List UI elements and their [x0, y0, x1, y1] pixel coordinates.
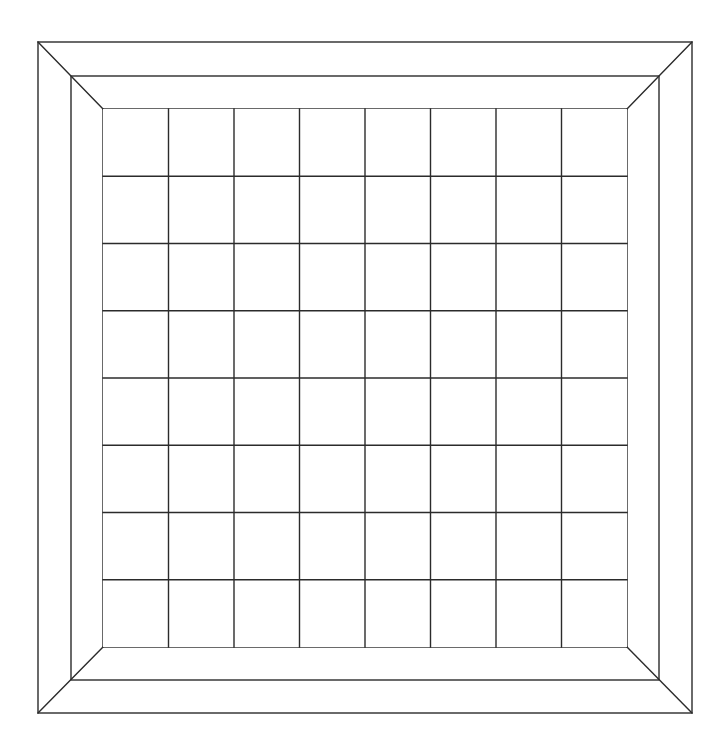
- square-b3[interactable]: [169, 445, 235, 512]
- square-d7[interactable]: [300, 176, 366, 243]
- square-e7[interactable]: [365, 176, 431, 243]
- square-d6[interactable]: [300, 244, 366, 311]
- square-d5[interactable]: [300, 311, 366, 378]
- square-f5[interactable]: [431, 311, 497, 378]
- square-d4[interactable]: [300, 378, 366, 445]
- square-f1[interactable]: [431, 580, 497, 647]
- square-a4[interactable]: [103, 378, 169, 445]
- square-g1[interactable]: [496, 580, 562, 647]
- square-a6[interactable]: [103, 244, 169, 311]
- square-e5[interactable]: [365, 311, 431, 378]
- square-c2[interactable]: [234, 513, 300, 580]
- square-b6[interactable]: [169, 244, 235, 311]
- square-f7[interactable]: [431, 176, 497, 243]
- square-h8[interactable]: [562, 109, 628, 176]
- chessboard: [0, 0, 722, 754]
- square-h6[interactable]: [562, 244, 628, 311]
- square-b7[interactable]: [169, 176, 235, 243]
- square-a5[interactable]: [103, 311, 169, 378]
- square-c5[interactable]: [234, 311, 300, 378]
- square-g4[interactable]: [496, 378, 562, 445]
- square-e4[interactable]: [365, 378, 431, 445]
- square-e8[interactable]: [365, 109, 431, 176]
- square-e6[interactable]: [365, 244, 431, 311]
- square-a3[interactable]: [103, 445, 169, 512]
- square-b8[interactable]: [169, 109, 235, 176]
- square-a8[interactable]: [103, 109, 169, 176]
- square-e1[interactable]: [365, 580, 431, 647]
- square-d1[interactable]: [300, 580, 366, 647]
- square-g5[interactable]: [496, 311, 562, 378]
- square-f6[interactable]: [431, 244, 497, 311]
- square-h2[interactable]: [562, 513, 628, 580]
- square-d2[interactable]: [300, 513, 366, 580]
- square-f3[interactable]: [431, 445, 497, 512]
- square-c3[interactable]: [234, 445, 300, 512]
- square-a7[interactable]: [103, 176, 169, 243]
- square-h4[interactable]: [562, 378, 628, 445]
- square-c6[interactable]: [234, 244, 300, 311]
- square-c7[interactable]: [234, 176, 300, 243]
- square-g7[interactable]: [496, 176, 562, 243]
- square-c4[interactable]: [234, 378, 300, 445]
- square-b5[interactable]: [169, 311, 235, 378]
- square-f8[interactable]: [431, 109, 497, 176]
- square-e3[interactable]: [365, 445, 431, 512]
- square-e2[interactable]: [365, 513, 431, 580]
- square-a2[interactable]: [103, 513, 169, 580]
- square-g8[interactable]: [496, 109, 562, 176]
- square-b4[interactable]: [169, 378, 235, 445]
- square-d3[interactable]: [300, 445, 366, 512]
- square-a1[interactable]: [103, 580, 169, 647]
- square-c1[interactable]: [234, 580, 300, 647]
- square-h5[interactable]: [562, 311, 628, 378]
- square-g2[interactable]: [496, 513, 562, 580]
- square-b2[interactable]: [169, 513, 235, 580]
- square-h7[interactable]: [562, 176, 628, 243]
- square-f4[interactable]: [431, 378, 497, 445]
- square-d8[interactable]: [300, 109, 366, 176]
- square-h3[interactable]: [562, 445, 628, 512]
- square-g3[interactable]: [496, 445, 562, 512]
- square-h1[interactable]: [562, 580, 628, 647]
- square-f2[interactable]: [431, 513, 497, 580]
- square-g6[interactable]: [496, 244, 562, 311]
- square-b1[interactable]: [169, 580, 235, 647]
- square-c8[interactable]: [234, 109, 300, 176]
